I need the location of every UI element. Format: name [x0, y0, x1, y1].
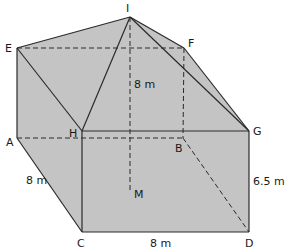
label-F: F: [188, 37, 194, 50]
label-E: E: [5, 42, 12, 55]
measure-edge-CD: 8 m: [150, 237, 171, 250]
label-H: H: [69, 127, 77, 140]
label-I: I: [126, 2, 129, 15]
label-A: A: [6, 136, 14, 149]
measure-height-IM: 8 m: [134, 78, 155, 91]
label-B: B: [175, 142, 183, 155]
label-C: C: [77, 237, 85, 250]
solid-faces: [17, 17, 249, 232]
label-D: D: [245, 237, 253, 250]
front-face: [82, 131, 249, 232]
geometry-diagram: I E F H G A B C D M 8 m 8 m 8 m 6.5 m: [0, 0, 285, 250]
measure-edge-GD: 6.5 m: [253, 175, 285, 188]
measure-edge-AC: 8 m: [26, 174, 47, 187]
label-M: M: [134, 188, 144, 201]
label-G: G: [253, 125, 262, 138]
